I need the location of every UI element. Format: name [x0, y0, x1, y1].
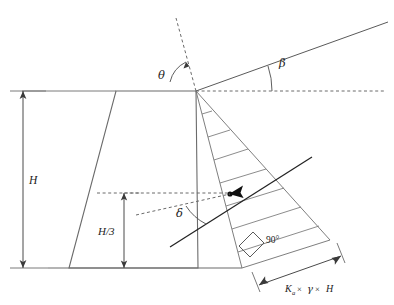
vertical-reference-dashed-line	[176, 18, 196, 91]
wall-height-symbol: H	[325, 283, 334, 294]
backfill-slope-line	[196, 22, 388, 91]
theta-angle-arc	[170, 62, 186, 82]
pressure-hatch-line	[220, 169, 266, 183]
pressure-hatch-line	[232, 207, 301, 229]
wall-batter-angle-label: θ	[158, 68, 165, 82]
pressure-hatch-line	[214, 149, 248, 160]
height-label: H	[28, 174, 38, 186]
pressure-dimension-arrowhead-left	[259, 276, 269, 285]
pressure-dimension-arrowhead-right	[331, 256, 341, 265]
pressure-hatch-line	[208, 130, 230, 137]
earth-pressure-coefficient-subscript: a	[292, 289, 296, 296]
multiply-symbol-second: ×	[315, 284, 320, 294]
diagram-canvas: 90° H H/3 θ β δ	[0, 0, 394, 305]
pressure-dimension-tick-left	[252, 272, 260, 292]
pressure-dimension-line	[259, 256, 341, 285]
resultant-force-line	[170, 157, 312, 247]
third-height-label: H/3	[97, 225, 115, 237]
right-angle-label: 90°	[266, 235, 280, 245]
delta-angle-arc	[186, 206, 206, 224]
wall-friction-angle-label: δ	[176, 206, 183, 220]
beta-angle-arc	[268, 66, 272, 91]
pressure-resultant-label: K a × γ × H	[284, 283, 334, 296]
pressure-dimension-tick-right	[337, 243, 345, 263]
multiply-symbol-first: ×	[297, 284, 302, 294]
wall-normal-dashed-line	[136, 194, 230, 215]
backfill-slope-angle-label: β	[278, 56, 286, 70]
pressure-hatch-line	[202, 111, 212, 114]
unit-weight-symbol: γ	[307, 283, 313, 294]
engineering-diagram: 90° H H/3 θ β δ	[0, 0, 394, 305]
